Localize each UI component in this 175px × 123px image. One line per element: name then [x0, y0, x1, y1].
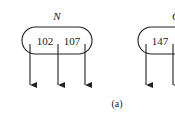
node-n: N 102 107 — [22, 10, 92, 85]
node-n-key-1: 102 — [37, 35, 54, 47]
btree-diagram: N 102 107 Q 147 (a) — [0, 0, 175, 123]
figure-caption: (a) — [111, 98, 122, 110]
node-q-key-1: 147 — [152, 35, 169, 47]
node-n-label: N — [52, 10, 61, 22]
node-q: Q 147 — [138, 10, 175, 85]
node-n-key-2: 107 — [64, 35, 81, 47]
node-n-box — [22, 27, 92, 54]
node-q-label: Q — [172, 10, 175, 22]
